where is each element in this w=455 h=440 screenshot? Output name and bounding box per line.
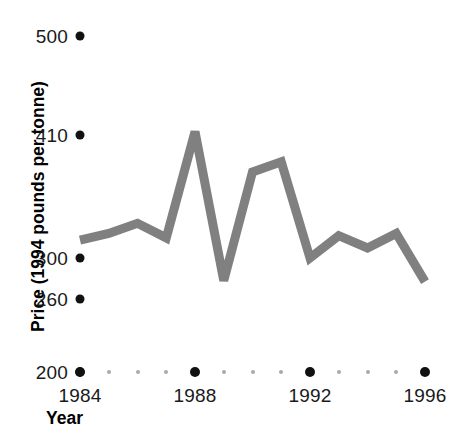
y-tick-label-500: 500 xyxy=(10,27,68,46)
x-axis-dot-major-1988 xyxy=(190,367,200,377)
y-tick-dot-500 xyxy=(76,32,85,41)
y-tick-label-260: 260 xyxy=(10,290,68,309)
y-tick-dot-300 xyxy=(76,254,85,263)
x-axis-dot-major-1984 xyxy=(75,367,85,377)
x-axis-dot-minor-1985 xyxy=(107,370,111,374)
x-axis-dot-minor-1995 xyxy=(394,370,398,374)
x-axis-title: Year xyxy=(46,408,83,429)
data-line-svg xyxy=(0,0,455,440)
y-tick-label-300: 300 xyxy=(10,249,68,268)
x-tick-label-1988: 1988 xyxy=(173,385,216,407)
x-axis-dot-major-1992 xyxy=(305,367,315,377)
x-axis-dot-minor-1990 xyxy=(251,370,255,374)
x-axis-dot-minor-1994 xyxy=(366,370,370,374)
x-axis-dot-minor-1987 xyxy=(164,370,168,374)
x-axis-dot-minor-1991 xyxy=(279,370,283,374)
x-axis-dot-minor-1993 xyxy=(337,370,341,374)
y-axis-ticks: 500 410 300 260 200 xyxy=(0,0,68,440)
x-axis-dot-major-1996 xyxy=(420,367,430,377)
y-tick-dot-410 xyxy=(76,131,85,140)
y-tick-label-200: 200 xyxy=(10,363,68,382)
y-tick-dot-260 xyxy=(76,295,85,304)
x-tick-label-1984: 1984 xyxy=(58,385,101,407)
price-line-chart: Price (1994 pounds per tonne) 500 410 30… xyxy=(0,0,455,440)
x-tick-label-1992: 1992 xyxy=(288,385,331,407)
y-tick-label-410: 410 xyxy=(10,126,68,145)
price-series-line xyxy=(80,132,425,282)
x-axis-dot-minor-1989 xyxy=(222,370,226,374)
x-axis-dot-minor-1986 xyxy=(136,370,140,374)
x-tick-label-1996: 1996 xyxy=(403,385,446,407)
